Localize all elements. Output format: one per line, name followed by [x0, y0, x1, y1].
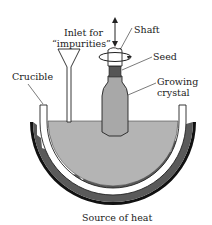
- impurity-inlet-funnel: [58, 49, 80, 122]
- vertical-motion-arrow-icon: [112, 17, 118, 47]
- label-crucible: Crucible: [12, 71, 53, 82]
- label-inlet: Inlet for “impurities”: [52, 27, 111, 49]
- shaft: [108, 48, 122, 66]
- label-seed: Seed: [153, 51, 177, 62]
- label-heat-source: Source of heat: [82, 212, 152, 223]
- seed: [109, 66, 121, 77]
- label-shaft: Shaft: [134, 24, 160, 35]
- label-growing-crystal: Growing crystal: [157, 76, 198, 98]
